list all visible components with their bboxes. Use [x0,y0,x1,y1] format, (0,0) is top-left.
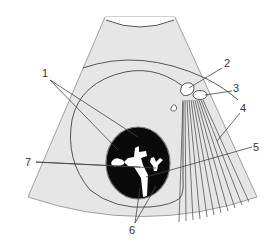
label-2: 2 [224,57,230,69]
diagram-canvas: 1 2 3 4 5 6 7 [0,0,275,252]
label-6: 6 [129,224,135,236]
label-3: 3 [233,82,239,94]
label-1: 1 [42,67,48,79]
ultrasound-diagram: 1 2 3 4 5 6 7 [0,0,275,252]
small-focus [171,105,177,111]
label-7: 7 [25,156,31,168]
structure-3-focus [193,91,207,100]
label-5: 5 [253,141,259,153]
label-4: 4 [240,102,246,114]
